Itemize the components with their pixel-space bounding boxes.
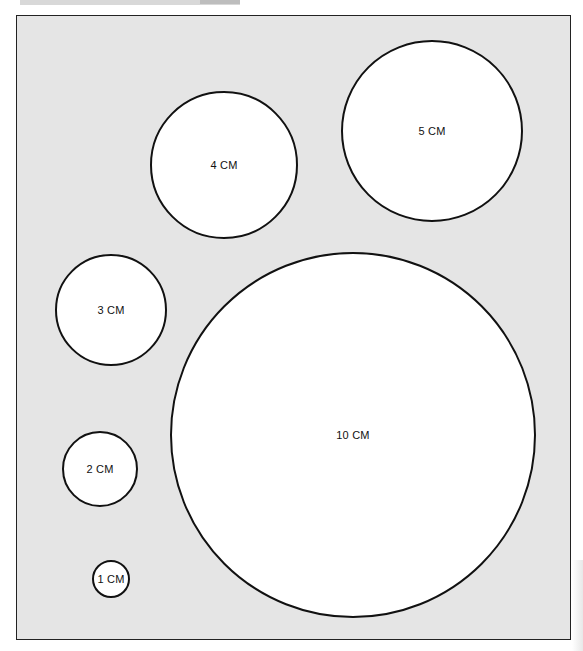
circle-2cm: 2 CM — [62, 431, 138, 507]
circle-3cm: 3 CM — [55, 254, 167, 366]
circle-4cm: 4 CM — [150, 91, 298, 239]
circle-label: 5 CM — [418, 125, 445, 137]
circle-5cm: 5 CM — [341, 40, 523, 222]
circle-10cm: 10 CM — [170, 252, 536, 618]
circle-label: 2 CM — [86, 463, 113, 475]
circle-1cm: 1 CM — [92, 560, 130, 598]
page-shadow — [572, 560, 583, 651]
circle-label: 3 CM — [97, 304, 124, 316]
circle-label: 1 CM — [97, 573, 124, 585]
cropped-page-edge-mark — [200, 0, 240, 4]
circle-label: 4 CM — [210, 159, 237, 171]
circle-label: 10 CM — [336, 429, 369, 441]
